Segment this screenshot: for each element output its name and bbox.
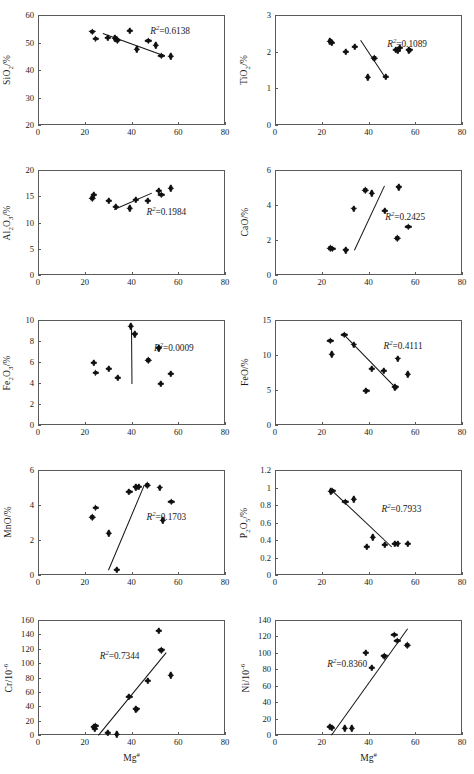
x-tick-label: 80 (448, 578, 474, 587)
y-tickmark (38, 425, 41, 426)
x-tickmark (462, 122, 463, 125)
x-tickmark (178, 572, 179, 575)
x-tick-label: 60 (401, 738, 429, 747)
r-squared-label-ni: R2=0.8360 (327, 657, 367, 669)
y-tickmark (275, 558, 278, 559)
y-tick-label: 20 (2, 717, 34, 726)
x-tickmark (322, 732, 323, 735)
y-tickmark (38, 634, 41, 635)
plot-area-cr (38, 620, 225, 735)
x-tickmark (415, 572, 416, 575)
y-tickmark (275, 275, 278, 276)
plot-panel-p2o5: 00.20.40.60.811.2020406080P2O5/%R2=0.793… (237, 455, 474, 605)
y-tickmark (275, 390, 278, 391)
x-tick-label: 60 (164, 128, 192, 137)
x-tickmark (178, 422, 179, 425)
y-axis-label-ni: Ni/10-6 (239, 643, 251, 713)
x-tickmark (322, 272, 323, 275)
y-tickmark (38, 170, 41, 171)
y-tickmark (275, 735, 278, 736)
y-tick-label: 120 (239, 632, 271, 641)
x-tickmark (132, 272, 133, 275)
y-tickmark (275, 425, 278, 426)
x-tickmark (225, 732, 226, 735)
x-tick-label: 40 (355, 428, 383, 437)
x-tickmark (38, 572, 39, 575)
x-tickmark (275, 732, 276, 735)
x-tickmark (178, 272, 179, 275)
y-tickmark (275, 505, 278, 506)
y-tickmark (38, 678, 41, 679)
x-tick-label: 0 (261, 738, 289, 747)
x-tick-label: 20 (308, 128, 336, 137)
x-tick-label: 0 (261, 578, 289, 587)
figure-grid: 2030405060020406080SiO2/%R2=0.6138012302… (0, 0, 474, 774)
y-tick-label: 160 (2, 616, 34, 625)
x-axis-label: Mg# (102, 751, 162, 763)
x-tickmark (38, 422, 39, 425)
y-tickmark (38, 341, 41, 342)
x-tick-label: 0 (261, 278, 289, 287)
x-tickmark (225, 422, 226, 425)
x-tickmark (369, 272, 370, 275)
y-tickmark (275, 719, 278, 720)
x-axis-label: Mg# (339, 751, 399, 763)
x-tick-label: 0 (24, 428, 52, 437)
y-axis-label-mno: MnO/% (3, 487, 13, 557)
y-tickmark (275, 669, 278, 670)
x-tick-label: 60 (164, 738, 192, 747)
plot-panel-sio2: 2030405060020406080SiO2/%R2=0.6138 (0, 0, 237, 155)
y-tickmark (38, 649, 41, 650)
x-tick-label: 0 (24, 278, 52, 287)
x-tick-label: 20 (71, 278, 99, 287)
y-tickmark (38, 575, 41, 576)
y-axis-label-fe2o3: Fe2O3/% (2, 337, 14, 407)
plot-panel-cao: 0246020406080CaO/%R2=0.2425 (237, 155, 474, 305)
x-tick-label: 60 (164, 428, 192, 437)
plot-area-mno (38, 470, 225, 575)
y-axis-label-sio2: SiO2/% (2, 35, 14, 105)
x-tick-label: 60 (401, 578, 429, 587)
y-tick-label: 6 (2, 466, 34, 475)
x-tickmark (132, 122, 133, 125)
y-tickmark (38, 721, 41, 722)
x-tick-label: 80 (211, 278, 239, 287)
y-tickmark (275, 686, 278, 687)
x-tick-label: 20 (71, 128, 99, 137)
y-axis-label-tio2: TiO2/% (239, 35, 251, 105)
x-tick-label: 0 (24, 738, 52, 747)
r-squared-label-mno: R2=0.1703 (146, 510, 186, 522)
x-tickmark (85, 422, 86, 425)
y-tickmark (275, 320, 278, 321)
y-tick-label: 140 (239, 616, 271, 625)
x-tick-label: 80 (448, 428, 474, 437)
y-tickmark (275, 355, 278, 356)
x-tickmark (369, 122, 370, 125)
y-tickmark (38, 320, 41, 321)
y-tickmark (38, 663, 41, 664)
plot-panel-fe2o3: 0246810020406080Fe2O3/%R2=0.0009 (0, 305, 237, 455)
x-tick-label: 80 (211, 128, 239, 137)
x-tickmark (369, 572, 370, 575)
x-tick-label: 40 (355, 738, 383, 747)
r-squared-label-fe2o3: R2=0.0009 (154, 341, 194, 353)
x-tickmark (462, 422, 463, 425)
y-tick-label: 10 (2, 316, 34, 325)
x-tickmark (462, 272, 463, 275)
plot-area-cao (275, 170, 462, 275)
x-tick-label: 40 (118, 578, 146, 587)
plot-panel-mno: 0246020406080MnO/%R2=0.1703 (0, 455, 237, 605)
y-tick-label: 6 (239, 166, 271, 175)
plot-panel-cr: 020406080100120140160020406080Cr/10-6Mg#… (0, 605, 237, 774)
y-tickmark (38, 196, 41, 197)
x-tick-label: 20 (308, 738, 336, 747)
x-tickmark (38, 272, 39, 275)
y-tickmark (275, 575, 278, 576)
y-tickmark (38, 125, 41, 126)
x-tickmark (415, 732, 416, 735)
y-tick-label: 60 (2, 11, 34, 20)
y-tickmark (275, 88, 278, 89)
x-tickmark (85, 272, 86, 275)
x-tickmark (132, 572, 133, 575)
x-tick-label: 60 (164, 278, 192, 287)
